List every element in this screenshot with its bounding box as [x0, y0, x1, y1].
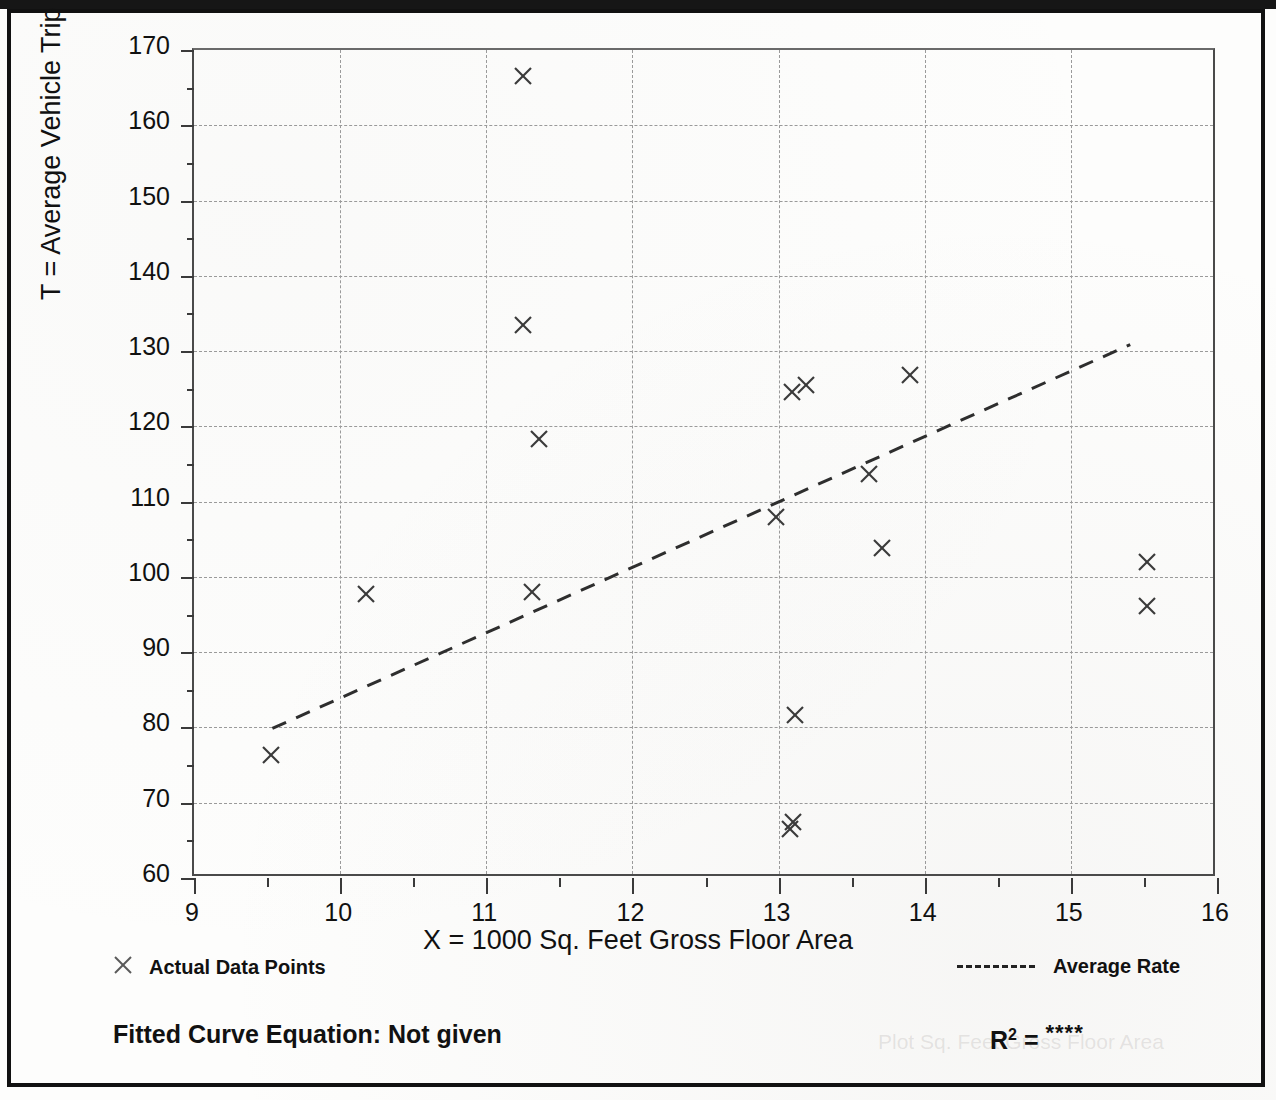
y-tick-minor: [187, 539, 194, 541]
legend-item-average-rate: Average Rate: [957, 955, 1180, 978]
y-tick-label: 170: [10, 31, 170, 60]
y-tick-major: [181, 502, 194, 504]
r-squared-value: R2 = ****: [990, 1020, 1084, 1055]
x-tick-minor: [267, 878, 269, 887]
gridline-horizontal: [194, 652, 1213, 653]
y-tick-minor: [187, 389, 194, 391]
y-axis-title: T = Average Vehicle Trip Ends: [36, 0, 67, 300]
y-tick-label: 110: [10, 483, 170, 512]
y-tick-label: 60: [10, 859, 170, 888]
data-point: [1136, 595, 1158, 617]
dashed-line-icon: [957, 965, 1035, 968]
y-tick-major: [181, 426, 194, 428]
r-squared-stars: ****: [1045, 1020, 1083, 1045]
x-tick-minor: [1144, 878, 1146, 887]
x-tick-minor: [998, 878, 1000, 887]
data-point: [355, 583, 377, 605]
x-tick-major: [1071, 878, 1073, 894]
gridline-horizontal: [194, 727, 1213, 728]
y-tick-major: [181, 125, 194, 127]
data-point: [779, 818, 801, 840]
figure-page: Plot Sq. Feet Gross Floor Area 607080901…: [0, 0, 1276, 1100]
gridline-horizontal: [194, 803, 1213, 804]
x-tick-major: [632, 878, 634, 894]
x-tick-label: 16: [1201, 898, 1229, 927]
y-tick-minor: [187, 88, 194, 90]
y-tick-minor: [187, 690, 194, 692]
gridline-horizontal: [194, 351, 1213, 352]
x-tick-label: 14: [909, 898, 937, 927]
y-tick-minor: [187, 313, 194, 315]
data-point: [765, 506, 787, 528]
y-tick-minor: [187, 840, 194, 842]
x-tick-major: [925, 878, 927, 894]
x-tick-major: [779, 878, 781, 894]
data-point: [784, 704, 806, 726]
gridline-horizontal: [194, 125, 1213, 126]
y-tick-label: 150: [10, 182, 170, 211]
y-tick-major: [181, 652, 194, 654]
x-tick-major: [340, 878, 342, 894]
gridline-horizontal: [194, 577, 1213, 578]
gridline-horizontal: [194, 426, 1213, 427]
y-tick-label: 90: [10, 633, 170, 662]
x-tick-minor: [852, 878, 854, 887]
y-tick-minor: [187, 238, 194, 240]
y-tick-minor: [187, 765, 194, 767]
y-tick-label: 130: [10, 332, 170, 361]
data-point: [521, 581, 543, 603]
plot-area: [192, 48, 1215, 876]
gridline-horizontal: [194, 502, 1213, 503]
x-tick-label: 10: [324, 898, 352, 927]
y-tick-major: [181, 201, 194, 203]
gridline-horizontal: [194, 276, 1213, 277]
x-tick-label: 11: [471, 898, 497, 927]
y-tick-major: [181, 878, 194, 880]
data-point: [1136, 551, 1158, 573]
data-point: [871, 537, 893, 559]
x-tick-label: 12: [617, 898, 645, 927]
gridline-vertical: [925, 50, 926, 874]
y-tick-major: [181, 727, 194, 729]
y-tick-label: 120: [10, 407, 170, 436]
data-point: [528, 428, 550, 450]
legend: Actual Data Points Average Rate: [0, 955, 1276, 989]
x-tick-major: [194, 878, 196, 894]
data-point: [260, 744, 282, 766]
gridline-vertical: [779, 50, 780, 874]
cross-marker-icon: [113, 955, 133, 979]
x-tick-minor: [413, 878, 415, 887]
y-tick-label: 80: [10, 708, 170, 737]
y-tick-label: 140: [10, 257, 170, 286]
x-tick-label: 15: [1055, 898, 1083, 927]
y-tick-major: [181, 803, 194, 805]
gridline-vertical: [1071, 50, 1072, 874]
x-tick-major: [1217, 878, 1219, 894]
figure-footer: Fitted Curve Equation: Not given R2 = **…: [0, 1020, 1276, 1060]
y-tick-label: 70: [10, 784, 170, 813]
gridline-vertical: [486, 50, 487, 874]
top-black-stripe: [0, 0, 1276, 9]
y-tick-label: 160: [10, 106, 170, 135]
legend-label-average-rate: Average Rate: [1053, 955, 1180, 978]
data-point: [512, 65, 534, 87]
r-squared-symbol: R: [990, 1026, 1008, 1054]
x-tick-minor: [559, 878, 561, 887]
x-tick-major: [486, 878, 488, 894]
y-tick-minor: [187, 464, 194, 466]
legend-label-actual-data-points: Actual Data Points: [149, 956, 326, 979]
data-point: [795, 374, 817, 396]
y-tick-minor: [187, 163, 194, 165]
gridline-vertical: [632, 50, 633, 874]
gridline-horizontal: [194, 201, 1213, 202]
r-squared-equals: =: [1017, 1026, 1046, 1054]
y-tick-label: 100: [10, 558, 170, 587]
y-tick-major: [181, 276, 194, 278]
data-point: [858, 463, 880, 485]
gridline-vertical: [340, 50, 341, 874]
x-axis-title: X = 1000 Sq. Feet Gross Floor Area: [0, 925, 1276, 956]
x-tick-minor: [706, 878, 708, 887]
x-tick-label: 9: [185, 898, 199, 927]
x-tick-label: 13: [763, 898, 791, 927]
data-point: [899, 364, 921, 386]
